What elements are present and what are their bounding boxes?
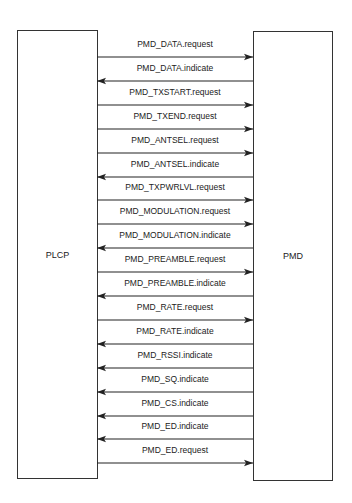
arrow-left-icon — [97, 77, 253, 85]
arrow-right-icon — [97, 268, 253, 276]
message-arrow: PMD_DATA.indicate — [97, 61, 253, 85]
arrow-left-icon — [97, 364, 253, 372]
arrow-right-icon — [97, 53, 253, 61]
message-arrow: PMD_CS.indicate — [97, 396, 253, 420]
message-label: PMD_PREAMBLE.indicate — [97, 278, 253, 288]
arrow-right-icon — [97, 196, 253, 204]
arrow-right-icon — [97, 101, 253, 109]
message-arrow: PMD_RATE.request — [97, 300, 253, 324]
arrow-left-icon — [97, 340, 253, 348]
message-label: PMD_RSSI.indicate — [97, 350, 253, 360]
message-arrow: PMD_DATA.request — [97, 37, 253, 61]
message-label: PMD_DATA.indicate — [97, 63, 253, 73]
arrow-left-icon — [97, 173, 253, 181]
arrow-left-icon — [97, 244, 253, 252]
message-label: PMD_MODULATION.indicate — [97, 230, 253, 240]
message-label: PMD_ANTSEL.indicate — [97, 159, 253, 169]
pmd-label: PMD — [254, 251, 332, 261]
arrow-right-icon — [97, 316, 253, 324]
message-label: PMD_TXSTART.request — [97, 87, 253, 97]
message-arrow: PMD_ED.indicate — [97, 419, 253, 443]
message-label: PMD_MODULATION.request — [97, 206, 253, 216]
arrow-left-icon — [97, 292, 253, 300]
arrow-right-icon — [97, 125, 253, 133]
arrow-left-icon — [97, 435, 253, 443]
message-label: PMD_ED.indicate — [97, 421, 253, 431]
arrow-right-icon — [97, 459, 253, 467]
message-label: PMD_ED.request — [97, 445, 253, 455]
arrow-left-icon — [97, 412, 253, 420]
arrow-left-icon — [97, 388, 253, 396]
message-label: PMD_DATA.request — [97, 39, 253, 49]
arrow-right-icon — [97, 220, 253, 228]
message-arrow: PMD_ED.request — [97, 443, 253, 467]
message-arrow: PMD_ANTSEL.request — [97, 133, 253, 157]
message-arrow: PMD_RSSI.indicate — [97, 348, 253, 372]
message-arrow: PMD_MODULATION.indicate — [97, 228, 253, 252]
message-arrow: PMD_TXSTART.request — [97, 85, 253, 109]
message-arrow: PMD_RATE.indicate — [97, 324, 253, 348]
message-arrow: PMD_SQ.indicate — [97, 372, 253, 396]
message-label: PMD_CS.indicate — [97, 398, 253, 408]
message-arrow: PMD_TXEND.request — [97, 109, 253, 133]
message-arrow: PMD_PREAMBLE.indicate — [97, 276, 253, 300]
message-arrow: PMD_ANTSEL.indicate — [97, 157, 253, 181]
message-label: PMD_TXPWRLVL.request — [97, 182, 253, 192]
plcp-entity-box: PLCP — [17, 30, 98, 479]
message-arrow: PMD_PREAMBLE.request — [97, 252, 253, 276]
message-label: PMD_TXEND.request — [97, 111, 253, 121]
pmd-entity-box: PMD — [253, 31, 333, 481]
message-arrow: PMD_MODULATION.request — [97, 204, 253, 228]
message-label: PMD_ANTSEL.request — [97, 135, 253, 145]
message-label: PMD_PREAMBLE.request — [97, 254, 253, 264]
message-label: PMD_RATE.request — [97, 302, 253, 312]
message-arrow: PMD_TXPWRLVL.request — [97, 180, 253, 204]
message-label: PMD_SQ.indicate — [97, 374, 253, 384]
plcp-label: PLCP — [18, 250, 97, 260]
arrow-right-icon — [97, 149, 253, 157]
message-label: PMD_RATE.indicate — [97, 326, 253, 336]
